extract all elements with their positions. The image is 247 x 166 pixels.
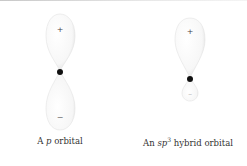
sp3-orbital: + − xyxy=(175,18,205,101)
sp3-minus-sign: − xyxy=(188,91,192,97)
sp3-plus-sign: + xyxy=(187,27,194,36)
sp3-nucleus xyxy=(187,76,193,82)
p-upper-lobe xyxy=(46,14,75,71)
sp3-orbital-caption: An sp3 hybrid orbital xyxy=(143,136,233,148)
p-orbital-caption: A p orbital xyxy=(37,136,83,146)
p-plus-sign: + xyxy=(57,25,64,34)
p-orbital: + − xyxy=(46,14,75,130)
p-minus-sign: − xyxy=(57,113,64,122)
p-nucleus xyxy=(57,69,63,75)
